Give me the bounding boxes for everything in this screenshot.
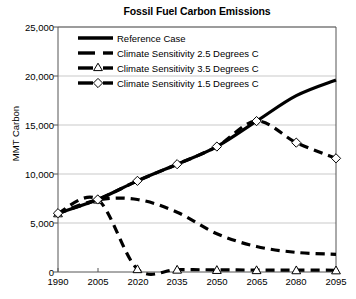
chart-container: Fossil Fuel Carbon Emissions MMT Carbon …	[0, 0, 356, 299]
y-axis-ticks	[53, 27, 58, 272]
plot-area	[0, 0, 356, 299]
plot-border	[58, 27, 336, 272]
diamond-marker	[331, 154, 340, 163]
legend-swatch-sensitivity-15	[78, 78, 113, 87]
data-series-layer	[53, 80, 340, 274]
legend-swatches	[78, 38, 113, 88]
series-reference-case	[58, 80, 336, 213]
series-climate-sensitivity-3-5-degrees-c	[54, 195, 341, 274]
gridlines	[58, 27, 336, 223]
legend-swatch-sensitivity-35	[78, 63, 113, 70]
series-climate-sensitivity-1-5-degrees-c	[53, 116, 340, 217]
diamond-marker	[173, 160, 182, 169]
series-line	[58, 80, 336, 213]
series-climate-sensitivity-2-5-degrees-c	[58, 198, 336, 254]
series-line	[58, 198, 336, 254]
series-line	[58, 197, 336, 274]
